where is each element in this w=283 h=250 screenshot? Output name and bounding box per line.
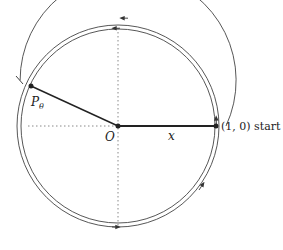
label-x: x	[168, 129, 175, 143]
unit-circle-diagram: P θ O x (1, 0) start	[0, 0, 283, 250]
point-origin	[116, 124, 121, 129]
label-theta: θ	[39, 102, 44, 111]
arc-end-tick	[16, 76, 23, 84]
point-p-theta	[29, 84, 34, 89]
theta-arc	[20, 0, 236, 126]
radius-to-p-theta	[31, 86, 118, 126]
label-start: (1, 0) start	[221, 120, 281, 133]
point-start	[214, 124, 219, 129]
label-origin: O	[105, 130, 115, 144]
